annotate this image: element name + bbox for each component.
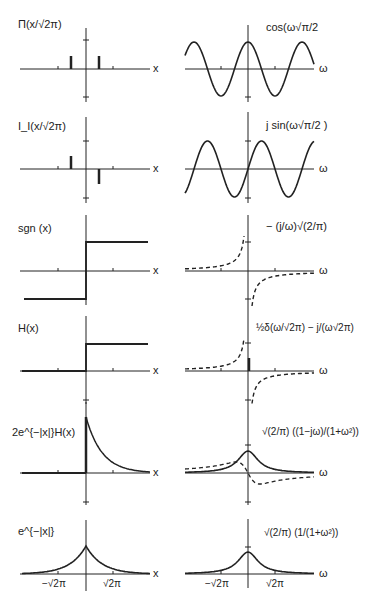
row1-left-plot [20, 28, 150, 102]
x-axis-label: x [153, 567, 159, 579]
row6-left-label: e^{−|x|} [18, 525, 54, 537]
tick-pos-sqrt2pi: √2π [103, 578, 121, 589]
transform-pairs-diagram [0, 0, 369, 611]
omega-axis-label: ω [319, 567, 328, 579]
tick-neg-sqrt2pi: −√2π [42, 578, 66, 589]
x-axis-label: x [153, 466, 159, 478]
row5-left-plot [20, 402, 150, 505]
row5-left-label: 2e^{−|x|}H(x) [12, 426, 75, 438]
row3-left-label: sgn (x) [18, 222, 52, 234]
omega-axis-label: ω [319, 162, 328, 174]
row2-left-label: I_I(x/√2π) [18, 120, 66, 132]
row1-right-plot [185, 25, 314, 102]
row5-right-plot [185, 404, 314, 505]
row4-left-label: H(x) [18, 322, 39, 334]
row4-right-plot [185, 302, 314, 404]
omega-axis-label: ω [319, 466, 328, 478]
omega-axis-label: ω [319, 264, 328, 276]
row5-right-label: √(2/π) ((1−jω)/(1+ω²)) [262, 426, 359, 437]
x-axis-label: x [153, 62, 159, 74]
x-axis-label: x [153, 162, 159, 174]
omega-axis-label: ω [319, 364, 328, 376]
row4-left-plot [20, 316, 150, 404]
row2-right-label: j sin(ω√π/2 ) [266, 119, 327, 131]
x-axis-label: x [153, 264, 159, 276]
x-axis-label: x [153, 364, 159, 376]
row1-left-label: Π(x/√2π) [18, 18, 62, 30]
row4-right-label: ½δ(ω/√2π) − j/(ω√2π) [256, 322, 354, 333]
row6-right-label: √(2/π) (1/(1+ω²)) [264, 527, 338, 538]
row3-right-label: − (j/ω)√(2/π) [266, 220, 327, 232]
tick-neg-sqrt2pi: −√2π [205, 578, 229, 589]
tick-pos-sqrt2pi: √2π [266, 578, 284, 589]
row1-right-label: cos(ω√π/2 [266, 21, 318, 33]
omega-axis-label: ω [319, 62, 328, 74]
